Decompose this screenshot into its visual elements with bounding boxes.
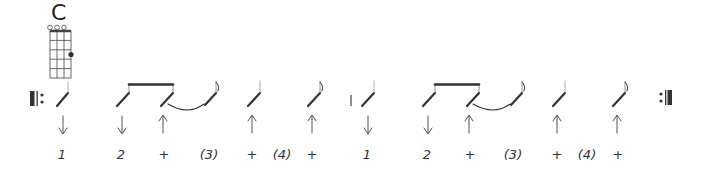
count-label: 2: [117, 147, 125, 162]
strum-down-arrow-icon: [59, 116, 67, 134]
count-label: 2: [423, 147, 431, 162]
slash-note: [613, 93, 625, 106]
repeat-end-icon: [659, 90, 672, 105]
open-string-icon: [62, 25, 67, 30]
strum-down-arrow-icon: [118, 116, 126, 134]
slash-note: [248, 93, 260, 106]
strum-up-arrow-icon: [465, 115, 473, 133]
chord-diagram: [48, 25, 74, 78]
slash-note: [57, 93, 68, 106]
count-label: (4): [578, 147, 596, 162]
strum-down-arrow-icon: [364, 116, 372, 134]
count-label: +: [552, 147, 563, 162]
open-string-icon: [48, 25, 53, 30]
strum-up-arrow-icon: [308, 115, 316, 133]
slash-note: [511, 93, 522, 105]
strum-up-arrow-icon: [248, 115, 256, 133]
slash-note: [362, 93, 374, 106]
finger-dot-icon: [68, 52, 73, 57]
tie: [473, 104, 510, 110]
slash-note: [117, 93, 129, 106]
count-label: +: [465, 147, 476, 162]
count-label: (3): [200, 147, 218, 162]
count-label: +: [613, 147, 624, 162]
strum-up-arrow-icon: [613, 115, 621, 133]
count-label: (4): [273, 147, 291, 162]
count-label: (3): [504, 147, 522, 162]
repeat-start-icon: [30, 91, 44, 106]
strum-up-arrow-icon: [159, 115, 167, 133]
count-label: 1: [363, 147, 371, 162]
strum-down-arrow-icon: [424, 116, 432, 134]
slash-note: [161, 93, 173, 106]
tie: [168, 104, 204, 110]
slash-note: [308, 93, 320, 106]
slash-note: [553, 93, 565, 106]
slash-note: [205, 93, 216, 105]
open-string-icon: [55, 25, 60, 30]
count-label: +: [159, 147, 170, 162]
count-label: +: [247, 147, 258, 162]
slash-note: [423, 93, 435, 106]
strum-up-arrow-icon: [553, 115, 561, 133]
count-label: +: [307, 147, 318, 162]
count-label: 1: [58, 147, 66, 162]
strum-notation: [0, 0, 709, 174]
